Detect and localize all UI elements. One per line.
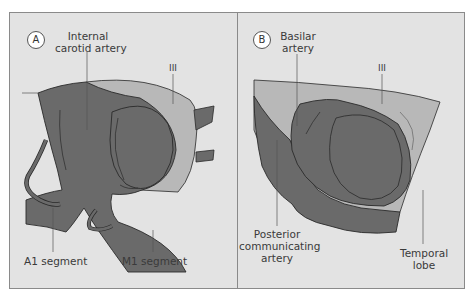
label-line: Temporal	[400, 247, 448, 259]
label-line: Basilar	[280, 30, 316, 42]
label-a1-segment: A1 segment	[24, 255, 84, 267]
panel-b-drawing	[254, 54, 440, 244]
label-line: lobe	[400, 259, 448, 271]
label-line: artery	[280, 42, 316, 54]
label-line: communicating	[239, 240, 315, 252]
label-m1-segment: M1 segment	[122, 255, 184, 267]
label-temporal-lobe: Temporal lobe	[400, 247, 448, 271]
label-line: Internal	[55, 30, 121, 42]
label-cn-iii-b: III	[376, 62, 388, 74]
label-line: artery	[239, 252, 315, 264]
panel-a-badge: A	[27, 31, 45, 49]
label-posterior-communicating-artery: Posterior communicating artery	[239, 228, 315, 264]
label-cn-iii-a: III	[167, 62, 179, 74]
label-basilar-artery: Basilar artery	[280, 30, 316, 54]
panel-b-badge: B	[253, 31, 271, 49]
label-line: Posterior	[239, 228, 315, 240]
label-internal-carotid-artery: Internal carotid artery	[55, 30, 121, 54]
label-line: carotid artery	[55, 42, 121, 54]
panel-a-drawing	[22, 52, 214, 272]
